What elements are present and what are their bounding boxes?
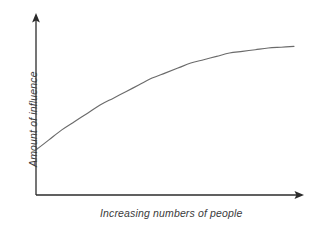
influence-curve [36, 46, 294, 150]
plot-canvas [0, 0, 320, 226]
chart-figure: Amount of influence Increasing numbers o… [0, 0, 320, 226]
y-axis-label: Amount of influence [27, 71, 39, 167]
x-axis-label: Increasing numbers of people [100, 207, 243, 219]
